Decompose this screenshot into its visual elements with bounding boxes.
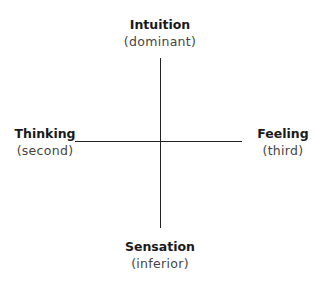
label-left-title: Thinking — [0, 126, 105, 142]
label-left: Thinking (second) — [0, 126, 105, 159]
label-right-role: (third) — [223, 142, 315, 159]
label-top-title: Intuition — [100, 17, 220, 33]
label-right: Feeling (third) — [223, 126, 315, 159]
label-bottom-role: (inferior) — [100, 255, 220, 272]
label-bottom: Sensation (inferior) — [100, 239, 220, 272]
label-top: Intuition (dominant) — [100, 17, 220, 50]
label-top-role: (dominant) — [100, 33, 220, 50]
label-right-title: Feeling — [223, 126, 315, 142]
label-left-role: (second) — [0, 142, 105, 159]
label-bottom-title: Sensation — [100, 239, 220, 255]
vertical-axis-line — [160, 58, 161, 228]
